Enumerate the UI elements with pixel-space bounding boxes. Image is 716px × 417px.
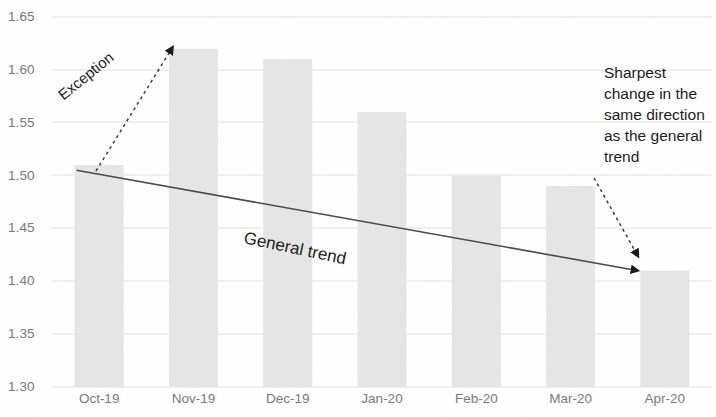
y-tick-1-50: 1.50 — [4, 169, 52, 183]
x-tick-label-nov-19: Nov-19 — [153, 392, 233, 406]
y-tick-1-60: 1.60 — [4, 63, 52, 77]
bar-nov-19 — [169, 49, 218, 387]
sharpest-change-callout-arrow — [594, 178, 638, 257]
x-tick-label-mar-20: Mar-20 — [531, 392, 611, 406]
bar-feb-20 — [452, 176, 501, 387]
y-tick-label: 1.35 — [8, 327, 52, 341]
bar-chart: 1.651.601.551.501.451.401.351.30 Oct-19N… — [0, 0, 716, 417]
y-tick-label: 1.30 — [8, 380, 52, 394]
y-tick-label: 1.55 — [8, 116, 52, 130]
y-tick-label: 1.50 — [8, 169, 52, 183]
x-tick-label-apr-20: Apr-20 — [625, 392, 705, 406]
annotation-sharpest-change: Sharpest change in the same direction as… — [604, 62, 712, 167]
y-tick-1-30: 1.30 — [4, 380, 52, 394]
x-tick-label-jan-20: Jan-20 — [342, 392, 422, 406]
bar-apr-20 — [640, 271, 689, 387]
bar-jan-20 — [358, 112, 407, 387]
y-tick-1-35: 1.35 — [4, 327, 52, 341]
y-tick-1-55: 1.55 — [4, 116, 52, 130]
y-tick-label: 1.60 — [8, 63, 52, 77]
x-tick-label-dec-19: Dec-19 — [248, 392, 328, 406]
x-tick-label-feb-20: Feb-20 — [436, 392, 516, 406]
y-tick-label: 1.45 — [8, 221, 52, 235]
y-tick-1-45: 1.45 — [4, 221, 52, 235]
y-tick-1-40: 1.40 — [4, 274, 52, 288]
bar-oct-19 — [75, 165, 124, 387]
bars-group — [75, 49, 690, 387]
bar-dec-19 — [263, 59, 312, 387]
x-tick-label-oct-19: Oct-19 — [59, 392, 139, 406]
y-tick-label: 1.65 — [8, 10, 52, 24]
y-tick-1-65: 1.65 — [4, 10, 52, 24]
y-tick-label: 1.40 — [8, 274, 52, 288]
bar-mar-20 — [546, 186, 595, 387]
